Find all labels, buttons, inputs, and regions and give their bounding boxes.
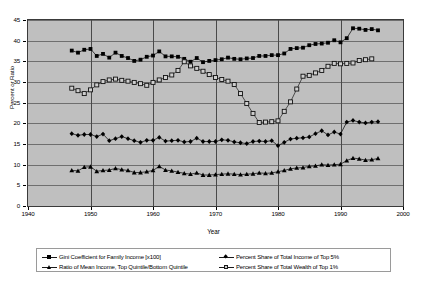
data-point	[76, 89, 80, 93]
series-2	[69, 156, 380, 177]
data-point	[320, 68, 324, 72]
data-point	[213, 139, 217, 144]
data-point	[320, 128, 324, 133]
data-point	[332, 38, 336, 42]
y-axis-tick-mark	[23, 165, 26, 166]
data-point	[113, 166, 118, 170]
data-point	[145, 55, 149, 59]
y-axis-tick-label: 0	[0, 203, 20, 209]
data-point	[101, 80, 105, 84]
data-point	[132, 59, 136, 63]
data-point	[220, 57, 224, 61]
x-axis-tick-mark	[341, 207, 342, 210]
series-line	[72, 120, 378, 145]
data-point	[270, 138, 274, 143]
data-point	[126, 136, 130, 141]
y-axis-tick-label: 10	[0, 162, 20, 168]
data-point	[207, 73, 211, 77]
legend-item-gini: Gini Coefficient for Family Income [x100…	[42, 252, 161, 262]
data-point	[82, 132, 86, 137]
data-point	[289, 100, 293, 104]
data-point	[114, 77, 118, 81]
x-axis-tick-label: 1980	[261, 210, 295, 217]
data-point	[157, 164, 162, 168]
data-point	[189, 60, 193, 64]
data-point	[357, 120, 361, 125]
data-point	[70, 131, 74, 136]
data-point	[319, 162, 324, 166]
data-point	[214, 75, 218, 79]
data-point	[264, 120, 268, 124]
data-point	[376, 119, 380, 124]
x-axis-tick-mark	[153, 207, 154, 210]
data-point	[132, 80, 136, 84]
data-point	[214, 58, 218, 62]
x-axis-tick-label: 1960	[136, 210, 170, 217]
data-point	[207, 59, 211, 63]
data-point	[307, 43, 311, 47]
x-axis-title: Year	[0, 228, 427, 235]
data-point	[201, 139, 205, 144]
legend-label: Percent Share of Total Income of Top 5%	[236, 254, 339, 260]
x-axis-tick-mark	[216, 207, 217, 210]
data-point	[257, 54, 261, 58]
data-point	[138, 140, 142, 145]
data-point	[126, 56, 130, 60]
data-point	[139, 82, 143, 86]
data-point	[88, 164, 93, 168]
data-point	[194, 171, 199, 175]
data-point	[338, 132, 342, 137]
data-point	[351, 156, 356, 160]
y-axis-tick-label: 30	[0, 79, 20, 85]
data-point	[295, 46, 299, 50]
y-axis-tick-label: 15	[0, 141, 20, 147]
data-point	[276, 143, 280, 148]
x-axis-tick-mark	[403, 207, 404, 210]
data-point	[163, 139, 167, 144]
data-point	[70, 49, 74, 53]
y-axis-tick-label: 25	[0, 100, 20, 106]
data-point	[339, 40, 343, 44]
legend-label: Gini Coefficient for Family Income [x100…	[59, 254, 161, 260]
legend-label: Percent Share of Total Wealth of Top 1%	[236, 264, 338, 270]
data-point	[157, 78, 161, 82]
data-point	[276, 53, 280, 57]
y-axis-tick-mark	[23, 82, 26, 83]
x-axis-tick-mark	[91, 207, 92, 210]
data-point	[164, 54, 168, 58]
data-point	[195, 136, 199, 141]
data-point	[201, 60, 205, 64]
data-point	[301, 135, 305, 140]
data-point	[232, 57, 236, 61]
data-point	[189, 64, 193, 68]
data-point	[88, 132, 92, 137]
x-axis-tick-label: 1940	[11, 210, 45, 217]
y-axis-tick-label: 5	[0, 182, 20, 188]
data-point	[114, 51, 118, 55]
data-point	[132, 138, 136, 143]
y-axis-tick-mark	[23, 103, 26, 104]
data-point	[69, 168, 74, 172]
y-axis-tick-mark	[23, 144, 26, 145]
data-point	[70, 86, 74, 90]
data-point	[264, 54, 268, 58]
data-point	[314, 42, 318, 46]
data-point	[245, 141, 249, 146]
data-point	[332, 130, 336, 135]
y-axis-tick-mark	[23, 123, 26, 124]
data-point	[363, 121, 367, 126]
data-point	[370, 120, 374, 125]
data-point	[139, 58, 143, 62]
y-axis-tick-label: 35	[0, 58, 20, 64]
data-point	[270, 53, 274, 57]
data-point	[282, 140, 286, 145]
data-point	[82, 92, 86, 96]
data-point	[357, 27, 361, 31]
series-3	[70, 57, 374, 125]
legend-item-top1-wealth: Percent Share of Total Wealth of Top 1%	[219, 262, 338, 272]
data-point	[107, 56, 111, 60]
y-axis-tick-label: 20	[0, 120, 20, 126]
data-point	[226, 138, 230, 143]
data-point	[295, 136, 299, 141]
data-point	[120, 78, 124, 82]
